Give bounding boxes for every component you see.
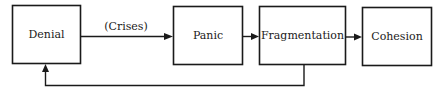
flow-diagram: Denial (Crises) Panic Fragmentation Cohe… xyxy=(0,0,443,93)
node-panic-label: Panic xyxy=(193,29,223,42)
edge-panic-fragmentation xyxy=(243,33,260,40)
edge-label-crises: (Crises) xyxy=(104,20,148,33)
edge-fragmentation-cohesion xyxy=(346,34,363,41)
edge-denial-panic: (Crises) xyxy=(81,20,174,40)
node-fragmentation: Fragmentation xyxy=(260,7,346,65)
feedback-line xyxy=(46,65,305,86)
node-cohesion-label: Cohesion xyxy=(371,30,423,43)
node-panic: Panic xyxy=(174,7,243,65)
arrowhead-icon xyxy=(251,33,259,40)
node-denial-label: Denial xyxy=(28,28,64,41)
edge-feedback-fragmentation-denial xyxy=(42,64,304,86)
arrowhead-icon xyxy=(354,34,362,41)
node-cohesion: Cohesion xyxy=(363,8,432,66)
node-fragmentation-label: Fragmentation xyxy=(261,29,344,42)
arrowhead-icon xyxy=(42,64,49,72)
node-denial: Denial xyxy=(13,6,81,64)
arrowhead-icon xyxy=(164,33,173,40)
